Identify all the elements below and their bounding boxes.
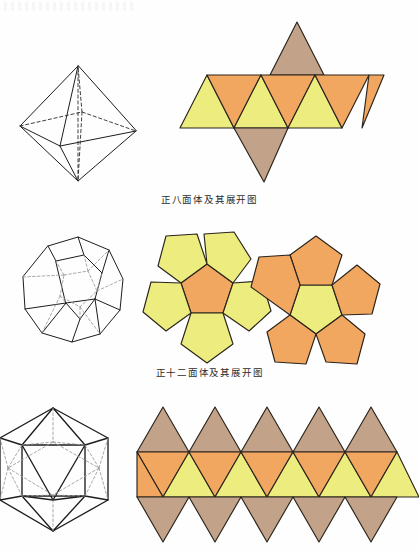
figure-dodecahedron: 正十二面体及其展开图 [0,215,419,390]
net-face-bottom-brown-2 [189,497,241,542]
net-face-top-brown-3 [241,407,293,452]
dodecahedron-net-left [143,232,271,363]
icosahedron-net [137,407,419,542]
icosahedron-figure-svg [0,390,419,550]
octahedron-figure-svg [0,0,419,215]
caption-dodecahedron: 正十二面体及其展开图 [0,365,419,379]
caption-octahedron: 正八面体及其展开图 [0,192,419,206]
octahedron-wireframe [20,66,136,181]
figure-page: 正八面体及其展开图 [0,0,419,550]
net-face-top-brown-2 [189,407,241,452]
octahedron-net [180,22,384,182]
net-face-brown-top [270,22,324,75]
net-face-bottom-brown-5 [345,497,397,542]
net-face-top-brown-5 [345,407,397,452]
dodecahedron-net-right [251,236,380,364]
net-face-top-brown-4 [293,407,345,452]
net-face-petal-yellow-4 [181,313,233,363]
net-face-bottom-brown-4 [293,497,345,542]
net-face-bottom-brown-1 [137,497,189,542]
dodecahedron-wireframe [23,237,123,342]
figure-octahedron: 正八面体及其展开图 [0,0,419,215]
net-face-top-brown-1 [137,407,189,452]
figure-icosahedron [0,390,419,550]
dodecahedron-figure-svg [0,215,419,390]
net-face-bottom-brown-3 [241,497,293,542]
icosahedron-wireframe [0,408,108,531]
net-face-petal-orange-3 [332,265,380,315]
net-face-brown-bottom [234,128,288,182]
